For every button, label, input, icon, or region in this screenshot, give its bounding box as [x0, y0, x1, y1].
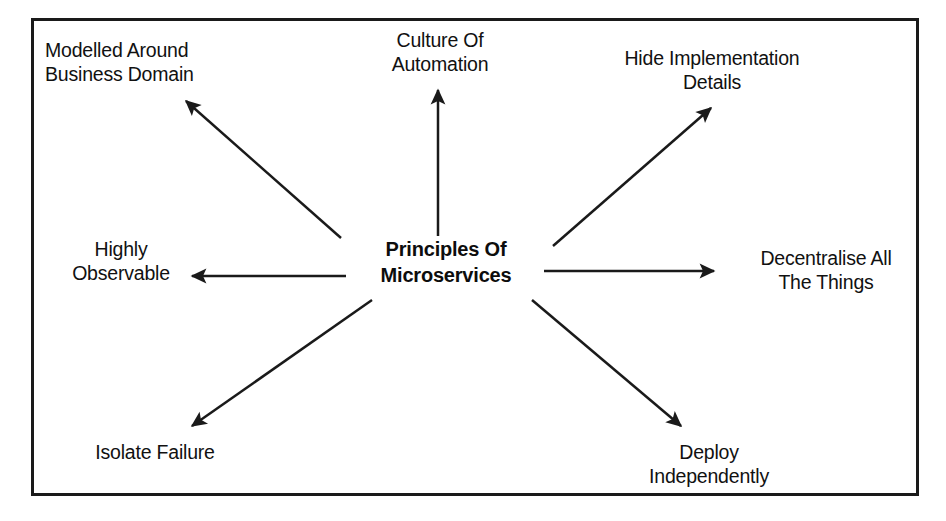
node-isolate-failure: Isolate Failure [60, 440, 250, 464]
node-decentralise-all-the-things: Decentralise All The Things [728, 246, 924, 294]
node-hide-implementation-details: Hide Implementation Details [588, 46, 836, 94]
center-node-principles-of-microservices: Principles Of Microservices [356, 236, 536, 288]
node-culture-of-automation: Culture Of Automation [348, 28, 532, 76]
node-modelled-around-business-domain: Modelled Around Business Domain [45, 38, 255, 86]
node-deploy-independently: Deploy Independently [614, 440, 804, 488]
diagram-canvas: Principles Of Microservices Modelled Aro… [0, 0, 946, 521]
node-highly-observable: Highly Observable [45, 237, 197, 285]
